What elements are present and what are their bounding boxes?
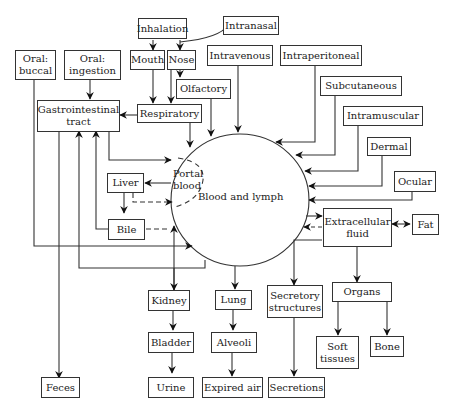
portal-blood-label: Portal blood — [173, 168, 203, 192]
bone-box: Bone — [370, 336, 404, 357]
fat-box: Fat — [412, 214, 439, 235]
soft-tissues-box: Soft tissues — [316, 336, 359, 369]
subcutaneous-box: Subcutaneous — [320, 76, 402, 96]
bladder-box: Bladder — [148, 332, 194, 353]
secretions-box: Secretions — [268, 377, 325, 398]
mouth-box: Mouth — [130, 50, 165, 70]
intranasal-box: Intranasal — [223, 16, 279, 35]
nose-box: Nose — [167, 50, 196, 70]
kidney-box: Kidney — [148, 290, 190, 311]
extracellular-fluid-box: Extracellular fluid — [323, 208, 392, 247]
secretory-structures-box: Secretory structures — [267, 285, 323, 318]
oral-buccal-box: Oral: buccal — [15, 50, 56, 80]
urine-box: Urine — [148, 377, 194, 398]
gi-tract-box: Gastrointestinal tract — [37, 100, 120, 132]
organs-box: Organs — [332, 282, 392, 302]
expired-air-box: Expired air — [202, 377, 263, 398]
intraperitoneal-box: Intraperitoneal — [280, 45, 362, 66]
lung-box: Lung — [215, 290, 252, 310]
ocular-box: Ocular — [394, 171, 436, 192]
intramuscular-box: Intramuscular — [343, 106, 423, 126]
inhalation-box: Inhalation — [138, 18, 187, 39]
bile-box: Bile — [108, 219, 145, 240]
blood-lymph-label: Blood and lymph — [198, 191, 283, 203]
olfactory-box: Olfactory — [176, 79, 231, 99]
alveoli-box: Alveoli — [211, 332, 257, 353]
intravenous-box: Intravenous — [207, 45, 273, 66]
oral-ingestion-box: Oral: ingestion — [64, 50, 121, 80]
respiratory-box: Respiratory — [137, 104, 202, 123]
liver-box: Liver — [107, 173, 144, 193]
dermal-box: Dermal — [367, 137, 411, 156]
feces-box: Feces — [41, 377, 80, 398]
